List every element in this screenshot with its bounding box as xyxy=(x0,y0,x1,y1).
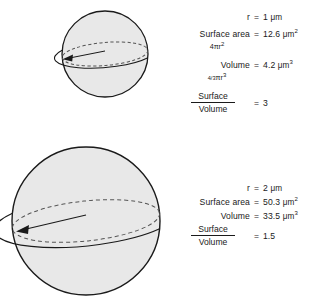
small-radius-unit: μm xyxy=(270,13,282,22)
small-radius-row: r = 1 μm xyxy=(176,12,308,22)
large-ratio-numerator: Surface xyxy=(195,224,231,235)
small-sphere-body xyxy=(62,11,148,97)
small-ratio-fraction: Surface Volume xyxy=(176,91,250,114)
figure-canvas: r = 1 μm Surface area = 12.6 μm2 4πr2 Vo… xyxy=(0,0,309,307)
large-sphere-svg xyxy=(10,137,164,307)
large-ratio-equals: = xyxy=(250,231,263,241)
large-volume-equals: = xyxy=(250,211,263,221)
small-volume-exponent: 3 xyxy=(290,59,293,65)
large-surface-area-row: Surface area = 50.3 μm2 xyxy=(176,197,308,207)
large-sphere-body xyxy=(12,147,160,295)
small-surface-area-exponent: 2 xyxy=(294,28,297,34)
large-radius-label: r xyxy=(176,183,250,193)
small-surface-area-formula: 4πr2 xyxy=(176,42,254,51)
small-surface-area-formula-row: 4πr2 xyxy=(176,42,308,51)
small-radius-label: r xyxy=(176,12,250,22)
large-volume-exponent: 3 xyxy=(294,210,297,216)
small-surface-area-row: Surface area = 12.6 μm2 xyxy=(176,29,308,39)
small-surface-area-equals: = xyxy=(250,29,263,39)
large-volume-value: 33.5 μm3 xyxy=(263,211,298,221)
large-sphere-stats: r = 2 μm Surface area = 50.3 μm2 Volume … xyxy=(176,183,308,247)
small-volume-equals: = xyxy=(250,60,263,70)
small-sphere-svg xyxy=(60,9,152,101)
large-surface-area-value: 50.3 μm2 xyxy=(263,197,298,207)
small-ratio-denominator: Volume xyxy=(196,104,231,115)
small-volume-row: Volume = 4.2 μm3 xyxy=(176,60,308,70)
small-volume-formula-fraction: 4/3 xyxy=(208,75,216,81)
small-volume-formula-row: 4/3πr3 xyxy=(176,73,308,82)
small-ratio-numerator: Surface xyxy=(195,91,231,102)
large-ratio-value: 1.5 xyxy=(263,231,275,241)
large-surface-area-exponent: 2 xyxy=(294,196,297,202)
small-surface-area-label: Surface area xyxy=(176,29,250,39)
large-radius-unit: μm xyxy=(270,184,282,193)
large-radius-row: r = 2 μm xyxy=(176,183,308,193)
small-volume-formula: 4/3πr3 xyxy=(176,73,254,82)
large-ratio-row: Surface Volume = 1.5 xyxy=(176,224,308,247)
large-surface-area-label: Surface area xyxy=(176,197,250,207)
large-volume-label: Volume xyxy=(176,211,250,221)
small-ratio-value: 3 xyxy=(263,98,268,108)
small-sphere-figure xyxy=(60,9,152,101)
small-sphere-stats: r = 1 μm Surface area = 12.6 μm2 4πr2 Vo… xyxy=(176,12,308,114)
small-radius-value: 1 μm xyxy=(263,12,282,22)
large-ratio-denominator: Volume xyxy=(196,237,231,248)
large-surface-area-equals: = xyxy=(250,197,263,207)
small-volume-label: Volume xyxy=(176,60,250,70)
small-volume-value: 4.2 μm3 xyxy=(263,60,293,70)
small-surface-area-value: 12.6 μm2 xyxy=(263,29,298,39)
large-radius-equals: = xyxy=(250,183,263,193)
large-sphere-figure xyxy=(10,137,164,307)
large-ratio-fraction: Surface Volume xyxy=(176,224,250,247)
small-radius-equals: = xyxy=(250,12,263,22)
small-ratio-equals: = xyxy=(250,98,263,108)
small-ratio-row: Surface Volume = 3 xyxy=(176,91,308,114)
large-radius-value: 2 μm xyxy=(263,183,282,193)
large-volume-row: Volume = 33.5 μm3 xyxy=(176,211,308,221)
